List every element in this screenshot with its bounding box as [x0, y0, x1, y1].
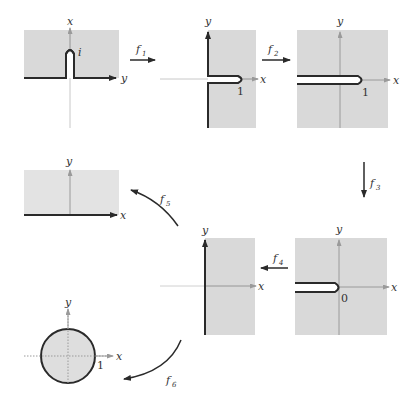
svg-text:6: 6 — [172, 381, 177, 389]
panel-5: y x — [160, 224, 265, 335]
axis-label-h: y — [120, 72, 128, 85]
svg-text:f: f — [159, 193, 166, 206]
map-arrow-f3: f 3 — [364, 162, 381, 197]
map-arrow-f1: f 1 — [130, 43, 155, 60]
panel-4: y x — [24, 155, 127, 222]
svg-text:1: 1 — [97, 359, 104, 372]
panel-1: x y i — [24, 15, 128, 128]
svg-text:x: x — [116, 350, 123, 363]
svg-text:f: f — [267, 43, 274, 56]
panel-6: y x 0 — [295, 223, 398, 335]
svg-text:y: y — [64, 296, 72, 309]
svg-text:5: 5 — [166, 200, 171, 208]
svg-text:1: 1 — [237, 85, 244, 98]
svg-text:1: 1 — [142, 50, 146, 58]
svg-text:y: y — [65, 155, 73, 168]
svg-text:x: x — [120, 209, 127, 222]
panel-2: y x 1 — [160, 15, 267, 128]
svg-text:x: x — [258, 280, 265, 293]
svg-text:x: x — [391, 281, 398, 294]
svg-text:x: x — [393, 74, 400, 87]
svg-text:y: y — [336, 15, 344, 28]
svg-text:3: 3 — [376, 184, 381, 192]
map-arrow-f2: f 2 — [262, 43, 290, 60]
svg-text:f: f — [272, 252, 279, 265]
region-upper-half-plane — [24, 170, 119, 215]
axis-label-v: x — [67, 15, 74, 28]
map-arrow-f6: f 6 — [124, 340, 181, 389]
svg-text:y: y — [204, 15, 212, 28]
point-label: i — [78, 46, 82, 59]
svg-text:f: f — [135, 43, 142, 56]
conformal-map-diagram: x y i f 1 y x 1 f 2 y x 1 f 3 — [0, 0, 417, 405]
svg-text:0: 0 — [341, 292, 348, 305]
svg-text:2: 2 — [273, 50, 279, 58]
panel-7: y x 1 — [24, 296, 123, 383]
svg-text:f: f — [369, 177, 376, 190]
map-arrow-f5: f 5 — [131, 190, 178, 226]
slit-interior — [67, 52, 74, 78]
svg-text:x: x — [260, 73, 267, 86]
svg-text:f: f — [165, 374, 172, 387]
svg-text:1: 1 — [362, 86, 369, 99]
svg-text:y: y — [335, 223, 343, 236]
panel-3: y x 1 — [297, 15, 400, 128]
map-arrow-f4: f 4 — [261, 252, 288, 268]
svg-text:y: y — [201, 224, 209, 237]
svg-text:4: 4 — [278, 259, 283, 267]
